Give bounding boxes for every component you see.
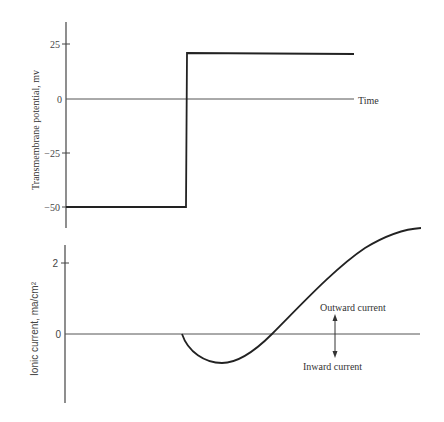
direction-arrow xyxy=(333,314,338,358)
voltage-step-trace xyxy=(66,53,354,207)
top-panel: 25 0 −25 −50 Time Transmembrane potentia… xyxy=(30,22,379,228)
time-axis-label: Time xyxy=(358,95,379,106)
bottom-y-axis-label: Ionic current, ma/cm² xyxy=(29,281,40,376)
tick-label-neg50: −50 xyxy=(44,202,60,213)
outward-current-label: Outward current xyxy=(320,302,386,313)
figure: 25 0 −25 −50 Time Transmembrane potentia… xyxy=(0,0,444,422)
arrow-down-icon xyxy=(333,351,338,358)
inward-current-label: Inward current xyxy=(303,361,362,372)
tick-label-25: 25 xyxy=(50,39,60,50)
arrow-up-icon xyxy=(333,314,338,321)
bottom-panel: 2 0 Outward current Inward current Ionic… xyxy=(29,228,421,403)
tick-label-0: 0 xyxy=(57,94,62,105)
tick-label-2: 2 xyxy=(52,258,58,269)
ionic-current-curve xyxy=(182,228,421,363)
tick-label-0: 0 xyxy=(55,329,61,340)
tick-label-neg25: −25 xyxy=(44,148,60,159)
top-y-axis-label: Transmembrane potential, mv xyxy=(30,70,41,190)
